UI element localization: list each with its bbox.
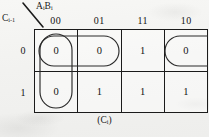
- kmap-cell-r1-c10: 1: [165, 72, 207, 113]
- row-header-0: 0: [14, 29, 32, 71]
- kmap-cell-r0-c01: 0: [78, 30, 121, 71]
- caption-open: (C: [97, 115, 107, 125]
- kmap-row-0: 0 0 1 0: [35, 30, 207, 72]
- column-variable-a: A: [36, 1, 43, 11]
- column-header-row: 00 01 11 10: [34, 14, 208, 28]
- karnaugh-map-figure: AiBi Ci-1 00 01 11 10 0 1 0 0 1 0 0 1 1 …: [0, 0, 209, 137]
- figure-caption: (Ci): [0, 115, 209, 125]
- column-header-00: 00: [34, 14, 78, 28]
- kmap-cell-r0-c10: 0: [165, 30, 207, 71]
- kmap-cell-r1-c11: 1: [122, 72, 165, 113]
- kmap-row-1: 0 1 1 1: [35, 72, 207, 113]
- column-header-11: 11: [121, 14, 165, 28]
- kmap-cell-r1-c00: 0: [35, 72, 78, 113]
- caption-close: ): [109, 115, 112, 125]
- row-header-column: 0 1: [14, 29, 32, 113]
- row-variable-label: Ci-1: [2, 13, 15, 23]
- kmap-cell-r0-c11: 1: [122, 30, 165, 71]
- column-variable-label: AiBi: [36, 1, 53, 11]
- column-header-10: 10: [165, 14, 209, 28]
- column-header-01: 01: [78, 14, 122, 28]
- kmap-cell-r0-c00: 0: [35, 30, 78, 71]
- kmap-cell-r1-c01: 1: [78, 72, 121, 113]
- kmap-grid: 0 0 1 0 0 1 1 1: [34, 29, 208, 113]
- row-header-1: 1: [14, 71, 32, 113]
- column-variable-b-sub: i: [51, 4, 53, 11]
- row-variable-c-sub: i-1: [8, 16, 15, 23]
